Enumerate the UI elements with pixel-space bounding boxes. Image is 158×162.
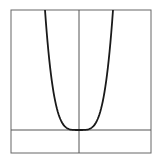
plot-frame xyxy=(11,10,151,153)
chart xyxy=(0,0,158,162)
